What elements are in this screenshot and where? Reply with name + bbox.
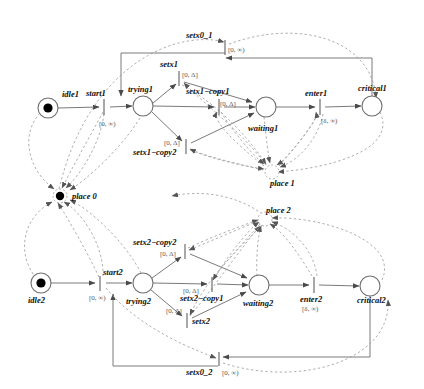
place-label-critical1: critical1 — [358, 83, 387, 93]
transitions-layer: start1 [0, ∞) setx1 [0, Δ] setx1−copy1 [… — [85, 30, 338, 377]
transition-guard-setx2-copy2: [0, Δ] — [160, 250, 176, 258]
place-waiting1[interactable]: waiting1 — [248, 97, 278, 133]
transition-setx0-1[interactable]: setx0_1 [0, ∞) — [185, 30, 245, 55]
place-place0[interactable]: place 0 — [53, 189, 98, 203]
place-trying2[interactable]: trying2 — [126, 273, 153, 306]
transition-guard-start2: [0, ∞) — [89, 294, 106, 302]
place-label-idle1: idle1 — [62, 89, 79, 99]
transition-guard-setx0-2: [0, ∞) — [222, 369, 239, 377]
transition-label-start2: start2 — [102, 267, 124, 277]
transition-start2[interactable]: start2 [0, ∞) — [89, 267, 124, 302]
transition-guard-setx1-copy2: [0, Δ] — [164, 139, 180, 147]
place-trying1[interactable]: trying1 — [128, 84, 153, 116]
transition-setx2-copy1[interactable]: setx2−copy1 [0, Δ] — [179, 277, 223, 303]
place-label-place2: place 2 — [265, 205, 292, 215]
transition-label-setx2: setx2 — [191, 316, 211, 326]
place-waiting2[interactable]: waiting2 — [243, 275, 274, 308]
place-label-trying1: trying1 — [128, 84, 153, 94]
transition-label-setx1-copy1: setx1−copy1 — [185, 86, 229, 96]
transition-guard-enter2: [δ, ∞) — [302, 305, 319, 313]
transition-guard-enter1: [δ, ∞) — [321, 117, 338, 125]
petri-net-diagram: idle1 trying1 waiting1 critical1 idle2 t… — [0, 0, 424, 389]
transition-guard-setx0-1: [0, ∞) — [228, 46, 245, 54]
transition-setx0-2[interactable]: setx0_2 [0, ∞) — [185, 352, 239, 377]
place-label-idle2: idle2 — [28, 295, 46, 305]
place-label-waiting2: waiting2 — [243, 298, 274, 308]
transition-enter2[interactable]: enter2 [δ, ∞) — [300, 277, 323, 313]
process2-solid-arcs — [51, 254, 370, 366]
transition-label-setx2-copy2: setx2−copy2 — [132, 237, 177, 247]
place-label-trying2: trying2 — [126, 296, 152, 306]
place-label-place1: place 1 — [269, 178, 295, 188]
place-idle2[interactable]: idle2 — [28, 273, 51, 305]
transition-guard-setx2: [0, Δ] — [166, 307, 182, 315]
transition-setx1-copy2[interactable]: setx1−copy2 [0, Δ] — [132, 139, 186, 157]
transition-label-enter2: enter2 — [300, 294, 323, 304]
transition-label-start1: start1 — [85, 88, 106, 98]
place-critical2[interactable]: critical2 — [357, 276, 387, 305]
transition-setx2-copy2[interactable]: setx2−copy2 [0, Δ] — [132, 237, 185, 259]
place1-dashed-arcs — [59, 33, 383, 189]
place-label-waiting1: waiting1 — [248, 123, 278, 133]
transition-label-setx0-2: setx0_2 — [185, 367, 213, 377]
place-label-place0: place 0 — [71, 191, 98, 201]
transition-guard-setx1: [0, Δ] — [182, 71, 198, 79]
transition-setx1[interactable]: setx1 [0, Δ] — [159, 59, 198, 86]
transition-setx2[interactable]: setx2 [0, Δ] — [166, 307, 211, 328]
transition-start1[interactable]: start1 [0, ∞) — [85, 88, 116, 128]
place-critical1[interactable]: critical1 — [358, 83, 387, 116]
transition-label-enter1: enter1 — [305, 88, 327, 98]
place-idle1[interactable]: idle1 — [38, 89, 79, 118]
transition-guard-setx2-copy1: [0, Δ] — [183, 287, 199, 295]
place-label-critical2: critical2 — [357, 295, 387, 305]
transition-label-setx1-copy2: setx1−copy2 — [132, 147, 177, 157]
place-place2[interactable]: place 2 — [258, 205, 292, 226]
transition-setx1-copy1[interactable]: setx1−copy1 [0, Δ] — [185, 86, 236, 115]
transition-guard-start1: [0, ∞) — [99, 120, 116, 128]
transition-guard-setx1-copy1: [0, Δ] — [220, 100, 236, 108]
transition-label-setx0-1: setx0_1 — [185, 30, 212, 40]
place-place1[interactable]: place 1 — [265, 165, 295, 188]
transition-label-setx1: setx1 — [159, 59, 178, 69]
process1-solid-arcs — [58, 53, 372, 143]
